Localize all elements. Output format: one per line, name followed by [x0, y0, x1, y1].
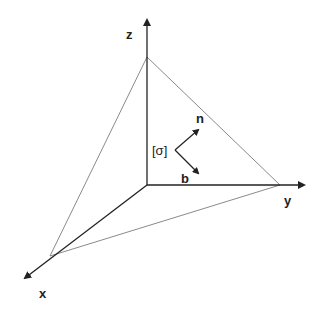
b-vector-arrow — [175, 150, 198, 173]
normal-vector-arrow — [175, 130, 198, 150]
stress-tensor-label: [σ] — [152, 144, 167, 157]
y-axis-label: y — [284, 194, 291, 207]
b-vector-label: b — [181, 172, 189, 185]
x-axis-label: x — [39, 287, 46, 300]
tetrahedron-stress-diagram: z y x [σ] n b — [0, 0, 326, 312]
z-axis-label: z — [126, 28, 133, 41]
normal-vector-label: n — [196, 112, 204, 125]
